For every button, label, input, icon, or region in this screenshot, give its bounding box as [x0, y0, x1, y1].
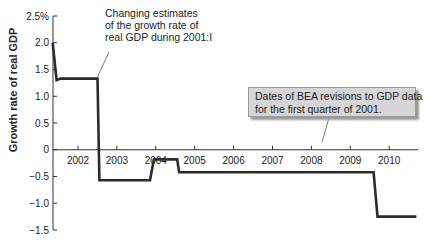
annotation-line: real GDP during 2001:I: [105, 31, 212, 43]
x-axis-ticks: 200220032004200520062007200820092010: [67, 146, 401, 166]
y-tick-label: 2.0: [35, 37, 49, 48]
x-tick-label: 2010: [378, 155, 401, 166]
y-tick-label: 1.0: [35, 91, 49, 102]
callout-line: Dates of BEA revisions to GDP data: [255, 90, 409, 103]
annotation-changing-estimates: Changing estimates of the growth rate of…: [105, 7, 212, 43]
x-tick-label: 2006: [222, 155, 245, 166]
chart-canvas: 2.5%2.01.51.00.50−0.5−1.0−1.5 2002200320…: [0, 0, 427, 243]
annotation-line: Changing estimates: [105, 7, 212, 19]
x-tick-label: 2003: [106, 155, 129, 166]
y-tick-label: −1.5: [29, 225, 49, 236]
x-tick-label: 2009: [339, 155, 362, 166]
callout-pointer: [322, 118, 329, 142]
y-tick-label: −1.0: [29, 198, 49, 209]
x-tick-label: 2008: [300, 155, 323, 166]
callout-line: for the first quarter of 2001.: [255, 103, 409, 116]
annotation-pointer-1: [97, 52, 109, 78]
axes: [53, 16, 418, 230]
y-axis-label: Growth rate of real GDP: [7, 8, 23, 173]
x-tick-label: 2002: [67, 155, 90, 166]
gdp-growth-line: [53, 43, 417, 217]
y-tick-label: 2.5%: [26, 11, 49, 22]
annotation-line: of the growth rate of: [105, 19, 212, 31]
y-tick-label: 0.5: [35, 118, 49, 129]
x-tick-label: 2005: [184, 155, 207, 166]
y-tick-label: 1.5: [35, 64, 49, 75]
y-tick-label: 0: [43, 144, 49, 155]
y-tick-label: −0.5: [29, 171, 49, 182]
callout-bea-revisions: Dates of BEA revisions to GDP data for t…: [248, 87, 416, 117]
x-tick-label: 2007: [261, 155, 284, 166]
